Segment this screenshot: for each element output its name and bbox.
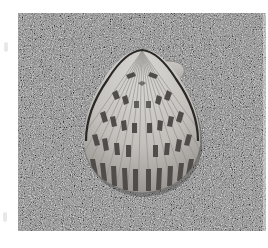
scan-artifact-mark <box>3 212 7 222</box>
shell-photograph <box>18 13 266 231</box>
scan-artifact-mark <box>4 42 8 52</box>
image-canvas <box>0 0 268 248</box>
photo-illustration <box>18 13 266 231</box>
photo-edge-highlight <box>263 13 266 231</box>
